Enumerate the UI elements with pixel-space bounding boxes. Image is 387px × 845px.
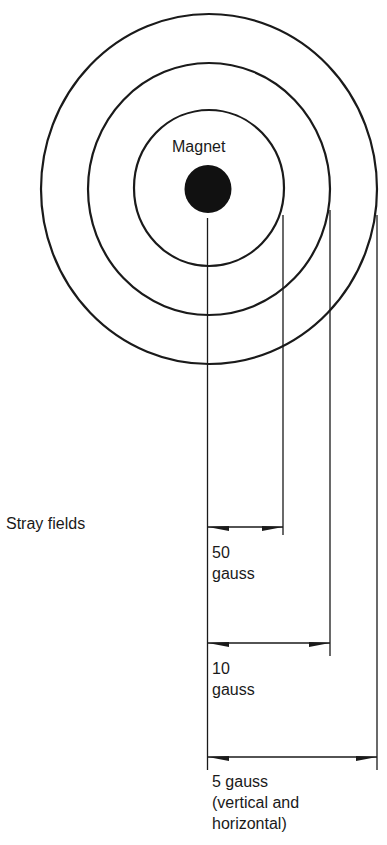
magnet-core (185, 165, 232, 213)
label-50-value: 50 (212, 542, 255, 563)
stray-field-diagram (0, 0, 387, 845)
label-10-gauss: 10 gauss (212, 658, 255, 700)
label-50-gauss: 50 gauss (212, 542, 255, 584)
label-5-line1: 5 gauss (212, 771, 299, 792)
label-5-gauss: 5 gauss (vertical and horizontal) (212, 771, 299, 834)
stray-fields-label: Stray fields (6, 513, 85, 534)
label-5-line3: horizontal) (212, 813, 299, 834)
label-10-value: 10 (212, 658, 255, 679)
label-5-line2: (vertical and (212, 792, 299, 813)
label-10-unit: gauss (212, 679, 255, 700)
label-50-unit: gauss (212, 563, 255, 584)
magnet-label: Magnet (172, 136, 225, 157)
